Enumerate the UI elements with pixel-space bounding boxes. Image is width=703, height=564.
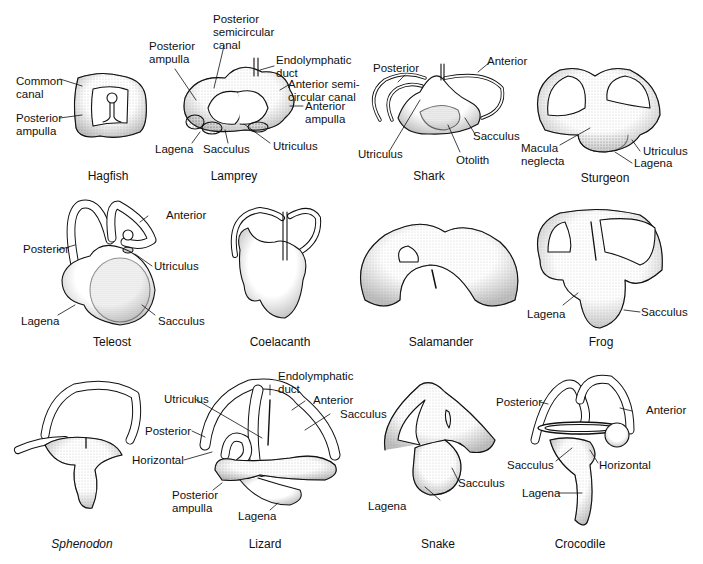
label-line: ampulla xyxy=(149,53,195,66)
label-anterior: Anterior xyxy=(313,394,353,407)
label-endolymphatic-duct: Endolymphatic duct xyxy=(276,54,351,80)
label-line: Posterior xyxy=(213,13,274,26)
label-posterior: Posterior xyxy=(496,396,542,409)
label-line: Endolymphatic xyxy=(278,370,353,383)
label-macula-neglecta: Macula neglecta xyxy=(521,142,564,168)
caption-frog: Frog xyxy=(589,335,614,349)
label-line: Common xyxy=(16,75,63,88)
caption-hagfish: Hagfish xyxy=(88,169,129,183)
label-line: Posterior xyxy=(149,40,195,53)
hagfish-drawing xyxy=(74,73,146,137)
label-sacculus: Sacculus xyxy=(458,477,505,490)
label-posterior-semicircular-canal: Posterior semicircular canal xyxy=(213,13,274,52)
label-lagena: Lagena xyxy=(527,308,565,321)
label-posterior: Posterior xyxy=(23,243,69,256)
label-lagena: Lagena xyxy=(238,510,276,523)
caption-sphenodon: Sphenodon xyxy=(51,537,112,551)
label-otolith: Otolith xyxy=(456,154,489,167)
label-lagena: Lagena xyxy=(21,315,59,328)
sphenodon-drawing xyxy=(18,385,137,508)
caption-coelacanth: Coelacanth xyxy=(250,335,311,349)
crocodile-drawing xyxy=(535,379,632,525)
label-line: Posterior xyxy=(172,489,218,502)
label-posterior: Posterior xyxy=(145,425,191,438)
label-lagena: Lagena xyxy=(522,487,560,500)
label-sacculus: Sacculus xyxy=(158,315,205,328)
label-utriculus: Utriculus xyxy=(154,260,199,273)
label-sacculus: Sacculus xyxy=(203,143,250,156)
label-line: Macula xyxy=(521,142,564,155)
label-sacculus: Sacculus xyxy=(507,459,554,472)
label-sacculus: Sacculus xyxy=(340,408,387,421)
inner-ear-comparison-figure: Common canal Posterior ampulla Hagfish P… xyxy=(0,0,703,564)
label-utriculus: Utriculus xyxy=(164,393,209,406)
label-line: ampulla xyxy=(172,502,218,515)
teleost-drawing xyxy=(58,204,155,325)
caption-snake: Snake xyxy=(421,537,455,551)
label-line: ampulla xyxy=(305,113,345,126)
label-line: Anterior xyxy=(305,100,345,113)
caption-lamprey: Lamprey xyxy=(211,169,258,183)
caption-lizard: Lizard xyxy=(249,537,282,551)
label-lagena: Lagena xyxy=(634,157,672,170)
label-line: Anterior semi- xyxy=(288,78,360,91)
label-line: ampulla xyxy=(16,125,62,138)
caption-salamander: Salamander xyxy=(409,335,474,349)
coelacanth-drawing xyxy=(234,210,318,318)
label-sacculus: Sacculus xyxy=(473,130,520,143)
label-utriculus: Utriculus xyxy=(273,140,318,153)
label-horizontal: Horizontal xyxy=(599,459,651,472)
label-anterior: Anterior xyxy=(166,209,206,222)
caption-teleost: Teleost xyxy=(93,335,131,349)
label-lagena: Lagena xyxy=(155,143,193,156)
label-anterior: Anterior xyxy=(487,55,527,68)
label-posterior-ampulla: Posterior ampulla xyxy=(16,112,62,138)
label-anterior-ampulla: Anterior ampulla xyxy=(305,100,345,126)
label-common-canal: Common canal xyxy=(16,75,63,101)
label-posterior: Posterior xyxy=(373,62,419,75)
label-line: semicircular xyxy=(213,26,274,39)
label-endolymphatic-duct: Endolymphatic duct xyxy=(278,370,353,396)
label-sacculus: Sacculus xyxy=(641,306,688,319)
label-horizontal: Horizontal xyxy=(132,454,184,467)
label-line: neglecta xyxy=(521,155,564,168)
label-anterior: Anterior xyxy=(646,404,686,417)
label-line: canal xyxy=(213,39,274,52)
label-posterior-ampulla: Posterior ampulla xyxy=(172,489,218,515)
label-lagena: Lagena xyxy=(368,500,406,513)
label-utriculus: Utriculus xyxy=(358,148,403,161)
label-posterior-ampulla: Posterior ampulla xyxy=(149,40,195,66)
label-line: Endolymphatic xyxy=(276,54,351,67)
label-line: Posterior xyxy=(16,112,62,125)
caption-sturgeon: Sturgeon xyxy=(581,171,630,185)
salamander-drawing xyxy=(361,224,518,306)
caption-crocodile: Crocodile xyxy=(555,537,606,551)
label-line: canal xyxy=(16,88,63,101)
caption-shark: Shark xyxy=(413,169,444,183)
